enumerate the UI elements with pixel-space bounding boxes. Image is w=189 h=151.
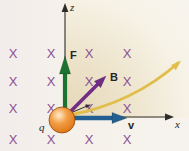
charged-particle-sphere	[49, 107, 75, 133]
charge-label: q	[39, 122, 45, 133]
velocity-vector-label: v	[128, 120, 134, 131]
force-vector-arrowhead	[59, 56, 70, 74]
force-vector-label: F	[70, 50, 77, 61]
vector-diagram	[0, 0, 189, 151]
physics-figure: XXXXXXXXXXXXXXXX	[0, 0, 189, 151]
z-axis-label: z	[70, 2, 74, 13]
magnetic-field-vector-label: B	[110, 72, 118, 83]
x-axis-label: x	[175, 119, 180, 130]
x-axis-arrowhead	[165, 114, 174, 121]
angle-indicator-arrowhead	[85, 105, 91, 109]
z-axis-arrowhead	[62, 3, 69, 12]
velocity-vector-arrowhead	[112, 112, 127, 123]
